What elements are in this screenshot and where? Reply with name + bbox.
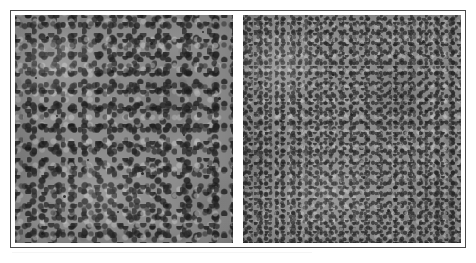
- micrograph-panel-left[interactable]: [15, 15, 233, 243]
- panel-divider: [233, 15, 243, 243]
- scan-artifact-line: [12, 252, 312, 253]
- grain-texture-fine: [243, 15, 461, 243]
- panel-strip: [15, 15, 461, 243]
- grain-texture-coarse: [15, 15, 233, 243]
- figure-page: [0, 0, 476, 263]
- micrograph-panel-right[interactable]: [243, 15, 461, 243]
- figure-frame: [10, 10, 466, 248]
